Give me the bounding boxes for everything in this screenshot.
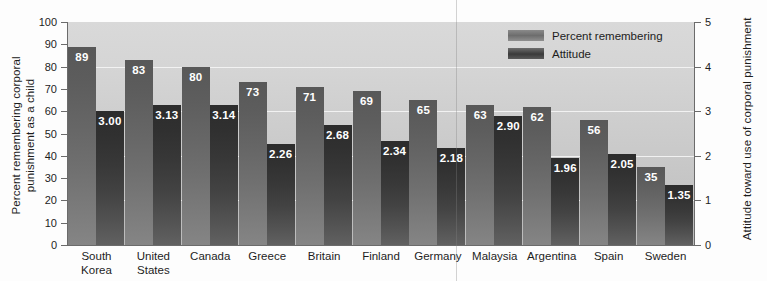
bar-value-label: 63: [466, 109, 494, 121]
y-axis-left-tick: [61, 223, 67, 224]
bar-value-label: 35: [637, 171, 665, 183]
chart-legend: Percent rememberingAttitude: [508, 28, 663, 64]
y-axis-left-tick-label: 60: [31, 106, 57, 117]
bar-value-label: 2.26: [267, 148, 295, 160]
y-axis-right-tick: [695, 67, 701, 68]
gridline: [68, 67, 694, 68]
bar-percent-remembering: 71: [296, 87, 324, 245]
bar-value-label: 2.90: [494, 120, 522, 132]
bar-attitude: 2.18: [437, 148, 465, 245]
bar-attitude: 2.26: [267, 144, 295, 245]
bar-value-label: 80: [182, 71, 210, 83]
legend-item-label: Percent remembering: [552, 30, 663, 42]
bar-percent-remembering: 63: [466, 105, 494, 245]
y-axis-right-tick-label: 2: [705, 151, 721, 162]
bar-percent-remembering: 69: [353, 91, 381, 245]
bar-percent-remembering: 89: [68, 47, 96, 245]
y-axis-right-tick: [695, 22, 701, 23]
y-axis-left-tick-label: 0: [31, 240, 57, 251]
bar-attitude: 1.96: [551, 158, 579, 245]
y-axis-left-tick-label: 80: [31, 62, 57, 73]
y-axis-left-tick: [61, 156, 67, 157]
bar-value-label: 2.05: [608, 158, 636, 170]
y-axis-left-tick: [61, 67, 67, 68]
legend-item: Percent remembering: [508, 28, 663, 43]
bar-value-label: 69: [353, 95, 381, 107]
x-axis-tick-label: Sweden: [626, 250, 706, 264]
y-axis-left-tick: [61, 44, 67, 45]
bar-value-label: 1.35: [665, 189, 693, 201]
bar-value-label: 73: [239, 86, 267, 98]
bar-value-label: 89: [68, 51, 96, 63]
y-axis-right-tick: [695, 200, 701, 201]
y-axis-right-tick-label: 5: [705, 17, 721, 28]
y-axis-right-line: [694, 22, 695, 246]
bar-value-label: 2.18: [437, 152, 465, 164]
bar-attitude: 2.90: [494, 116, 522, 245]
bar-percent-remembering: 83: [125, 60, 153, 245]
bar-value-label: 3.00: [96, 115, 124, 127]
legend-item-label: Attitude: [552, 48, 591, 60]
bar-attitude: 2.68: [324, 125, 352, 245]
y-axis-left-tick: [61, 178, 67, 179]
bar-value-label: 2.34: [381, 145, 409, 157]
bar-percent-remembering: 73: [239, 82, 267, 245]
y-axis-left-tick: [61, 111, 67, 112]
bar-percent-remembering: 56: [580, 120, 608, 245]
y-axis-right-tick-label: 4: [705, 62, 721, 73]
y-axis-left-tick-label: 10: [31, 218, 57, 229]
bar-attitude: 3.13: [153, 105, 181, 245]
y-axis-left-tick-label: 30: [31, 173, 57, 184]
bar-value-label: 65: [409, 104, 437, 116]
bar-attitude: 2.05: [608, 154, 636, 245]
y-axis-left-tick-label: 100: [31, 17, 57, 28]
y-axis-right-tick: [695, 156, 701, 157]
bar-value-label: 1.96: [551, 162, 579, 174]
y-axis-left-line: [67, 22, 68, 246]
y-axis-left-tick-label: 90: [31, 39, 57, 50]
y-axis-left-tick-label: 50: [31, 129, 57, 140]
legend-swatch-icon: [508, 48, 544, 59]
y-axis-right-tick: [695, 111, 701, 112]
bar-value-label: 3.14: [210, 109, 238, 121]
y-axis-left-tick: [61, 22, 67, 23]
chart-figure: Percent remembering corporal punishment …: [0, 0, 767, 281]
bar-percent-remembering: 65: [409, 100, 437, 245]
bar-value-label: 62: [523, 111, 551, 123]
bar-attitude: 3.00: [96, 111, 124, 245]
y-axis-right-tick-label: 0: [705, 240, 721, 251]
bar-value-label: 56: [580, 124, 608, 136]
bar-attitude: 1.35: [665, 185, 693, 245]
bar-value-label: 83: [125, 64, 153, 76]
y-axis-left-tick-label: 40: [31, 151, 57, 162]
bar-value-label: 71: [296, 91, 324, 103]
bar-value-label: 3.13: [153, 109, 181, 121]
y-axis-right-tick-label: 1: [705, 195, 721, 206]
bar-percent-remembering: 35: [637, 167, 665, 245]
x-axis-line: [67, 245, 695, 246]
y-axis-left-tick: [61, 245, 67, 246]
y-axis-left-tick-label: 20: [31, 195, 57, 206]
y-axis-left-tick: [61, 134, 67, 135]
y-axis-left-tick: [61, 200, 67, 201]
bar-attitude: 2.34: [381, 141, 409, 245]
bar-percent-remembering: 80: [182, 67, 210, 245]
bar-percent-remembering: 62: [523, 107, 551, 245]
bar-value-label: 2.68: [324, 129, 352, 141]
bar-attitude: 3.14: [210, 105, 238, 245]
y-axis-left-tick-label: 70: [31, 84, 57, 95]
y-axis-right-title: Attitude toward use of corporal punishme…: [741, 11, 755, 246]
y-axis-right-tick: [695, 245, 701, 246]
legend-item: Attitude: [508, 46, 663, 61]
y-axis-right-tick-label: 3: [705, 106, 721, 117]
y-axis-left-tick: [61, 89, 67, 90]
legend-swatch-icon: [508, 30, 544, 41]
